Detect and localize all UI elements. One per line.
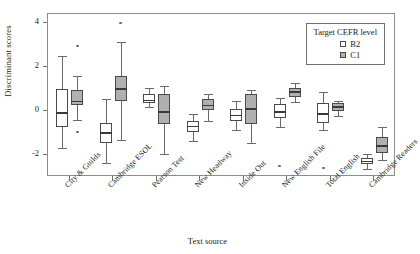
outlier-point — [322, 167, 325, 170]
whisker-lower-cap — [247, 143, 256, 144]
legend-item-c1: C1 — [314, 50, 377, 60]
box-c1-3 — [158, 94, 170, 124]
legend: Target CEFR level B2 C1 — [306, 23, 385, 65]
whisker-upper-cap — [334, 101, 343, 102]
legend-title: Target CEFR level — [314, 27, 377, 37]
whisker-lower-line — [106, 143, 107, 163]
y-tick-label: -2 — [17, 148, 39, 158]
whisker-upper-cap — [319, 92, 328, 93]
legend-label-b2: B2 — [350, 39, 360, 49]
whisker-lower-cap — [102, 163, 111, 164]
whisker-lower-line — [208, 110, 209, 121]
median-line — [71, 101, 83, 103]
y-tick-label: 4 — [17, 16, 39, 26]
median-line — [115, 88, 127, 90]
legend-label-c1: C1 — [350, 50, 360, 60]
whisker-lower-cap — [189, 141, 198, 142]
whisker-upper-cap — [232, 101, 241, 102]
median-line — [202, 105, 214, 107]
whisker-lower-line — [280, 118, 281, 128]
outlier-point — [76, 131, 79, 134]
plot-area: Target CEFR level B2 C1 — [47, 13, 395, 176]
whisker-upper-cap — [73, 76, 82, 77]
whisker-lower-cap — [378, 160, 387, 161]
whisker-upper-line — [323, 92, 324, 103]
median-line — [361, 161, 373, 163]
whisker-lower-cap — [319, 130, 328, 131]
whisker-lower-cap — [276, 127, 285, 128]
whisker-lower-line — [164, 124, 165, 154]
whisker-upper-cap — [204, 94, 213, 95]
median-line — [376, 145, 388, 147]
whisker-upper-cap — [160, 86, 169, 87]
whisker-upper-line — [106, 99, 107, 123]
legend-swatch-b2-icon — [340, 41, 346, 47]
whisker-upper-cap — [247, 90, 256, 91]
median-line — [187, 126, 199, 128]
median-line — [289, 91, 301, 93]
y-tick-label: 2 — [17, 60, 39, 70]
whisker-lower-line — [193, 132, 194, 141]
box-c1-1 — [71, 90, 83, 105]
whisker-upper-line — [236, 101, 237, 109]
whisker-upper-line — [164, 86, 165, 94]
legend-swatch-c1-icon — [340, 52, 346, 58]
whisker-lower-cap — [145, 107, 154, 108]
outlier-point — [119, 22, 122, 25]
y-axis-title: Discriminant scores — [3, 0, 13, 131]
x-axis-title: Text source — [0, 236, 415, 246]
whisker-lower-cap — [363, 169, 372, 170]
whisker-upper-cap — [58, 56, 67, 57]
whisker-lower-line — [382, 153, 383, 161]
median-line — [245, 108, 257, 110]
median-line — [317, 113, 329, 115]
whisker-lower-line — [121, 101, 122, 140]
whisker-lower-cap — [58, 148, 67, 149]
whisker-lower-line — [77, 105, 78, 119]
whisker-upper-line — [121, 42, 122, 76]
median-line — [158, 111, 170, 113]
whisker-lower-cap — [204, 121, 213, 122]
median-line — [274, 111, 286, 113]
legend-item-b2: B2 — [314, 39, 377, 49]
whisker-upper-cap — [102, 99, 111, 100]
whisker-lower-cap — [291, 102, 300, 103]
whisker-lower-cap — [232, 130, 241, 131]
median-line — [143, 100, 155, 102]
whisker-lower-line — [62, 127, 63, 148]
whisker-upper-cap — [145, 88, 154, 89]
median-line — [332, 106, 344, 108]
outlier-point — [278, 165, 281, 168]
whisker-upper-line — [382, 127, 383, 137]
whisker-upper-cap — [276, 98, 285, 99]
whisker-upper-line — [62, 56, 63, 89]
whisker-upper-line — [77, 76, 78, 90]
whisker-upper-cap — [189, 114, 198, 115]
whisker-upper-cap — [363, 154, 372, 155]
whisker-lower-line — [236, 121, 237, 130]
median-line — [230, 115, 242, 117]
median-line — [56, 112, 68, 114]
whisker-lower-cap — [73, 120, 82, 121]
whisker-upper-cap — [291, 83, 300, 84]
whisker-lower-line — [251, 124, 252, 143]
whisker-lower-cap — [160, 154, 169, 155]
whisker-upper-cap — [117, 42, 126, 43]
whisker-lower-cap — [334, 116, 343, 117]
whisker-lower-cap — [117, 140, 126, 141]
whisker-lower-line — [323, 123, 324, 130]
y-tick-label: 0 — [17, 104, 39, 114]
median-line — [100, 132, 112, 134]
whisker-upper-cap — [378, 127, 387, 128]
outlier-point — [76, 45, 79, 48]
box-b2-1 — [56, 89, 68, 128]
